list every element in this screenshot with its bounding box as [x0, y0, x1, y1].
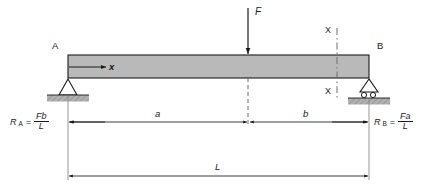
beam-diagram: A B F x X X a b L RA = Fb L RB = Fa L — [0, 0, 423, 187]
node-label-a: A — [52, 41, 58, 51]
axis-label-x: x — [109, 62, 114, 72]
reaction-left-symbol: R — [10, 118, 17, 127]
reaction-right-symbol: R — [374, 118, 381, 127]
reaction-formula-left: RA = Fb L — [10, 113, 49, 132]
dimension-label-L: L — [215, 162, 220, 172]
reaction-left-fraction: Fb L — [34, 112, 49, 131]
reaction-formula-right: RB = Fa L — [374, 113, 413, 132]
reaction-right-equals: = — [389, 118, 396, 127]
load-label-F: F — [255, 7, 261, 17]
beam-diagram-canvas — [0, 0, 423, 187]
node-label-b: B — [377, 41, 383, 51]
reaction-left-equals: = — [25, 118, 32, 127]
reaction-left-denominator: L — [34, 121, 49, 131]
reaction-left-numerator: Fb — [34, 112, 49, 121]
reaction-right-fraction: Fa L — [398, 112, 413, 131]
section-label-x-bottom: X — [325, 87, 331, 96]
reaction-right-subscript: B — [383, 121, 387, 128]
section-label-x-top: X — [325, 26, 331, 35]
reaction-right-denominator: L — [398, 121, 413, 131]
dimension-label-a: a — [155, 109, 160, 119]
reaction-right-numerator: Fa — [398, 112, 413, 121]
dimension-label-b: b — [303, 109, 308, 119]
reaction-left-subscript: A — [19, 121, 23, 128]
